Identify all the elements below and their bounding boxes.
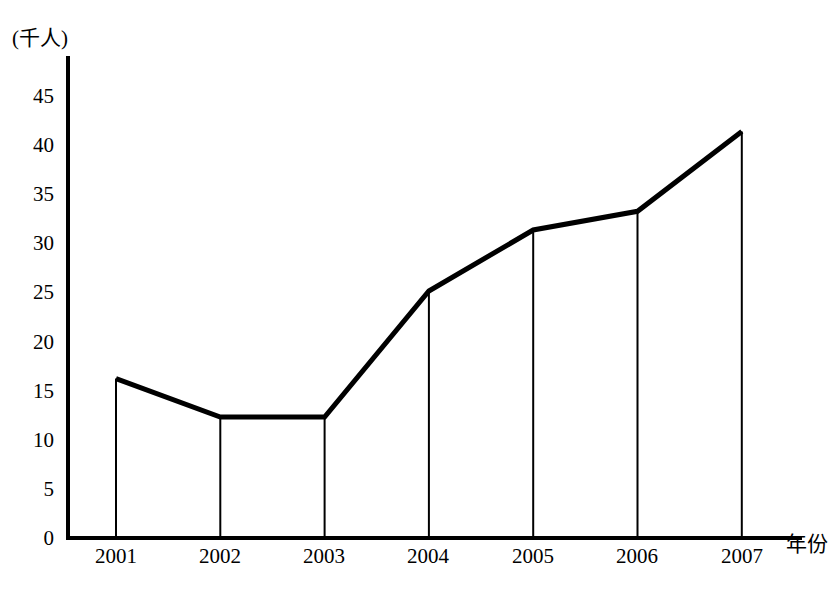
y-tick-label-45: 45 <box>10 86 54 107</box>
y-tick-label-10: 10 <box>10 430 54 451</box>
x-tick-label-2004: 2004 <box>407 546 449 567</box>
chart-container: (千人) 年份 0 5 10 15 20 25 30 35 40 45 2001… <box>0 0 840 600</box>
y-tick-label-15: 15 <box>10 381 54 402</box>
x-tick-label-2002: 2002 <box>199 546 241 567</box>
x-tick-label-2001: 2001 <box>95 546 137 567</box>
y-tick-label-40: 40 <box>10 135 54 156</box>
line-chart-svg <box>0 0 840 600</box>
y-tick-label-30: 30 <box>10 233 54 254</box>
y-tick-label-20: 20 <box>10 332 54 353</box>
y-tick-label-25: 25 <box>10 282 54 303</box>
y-tick-label-0: 0 <box>10 528 54 549</box>
y-axis-unit-label: (千人) <box>12 28 68 49</box>
y-tick-label-5: 5 <box>10 479 54 500</box>
x-tick-label-2003: 2003 <box>303 546 345 567</box>
x-axis-name-label: 年份 <box>786 534 828 555</box>
x-tick-label-2007: 2007 <box>721 546 763 567</box>
x-tick-label-2005: 2005 <box>512 546 554 567</box>
y-tick-label-35: 35 <box>10 184 54 205</box>
x-tick-label-2006: 2006 <box>616 546 658 567</box>
